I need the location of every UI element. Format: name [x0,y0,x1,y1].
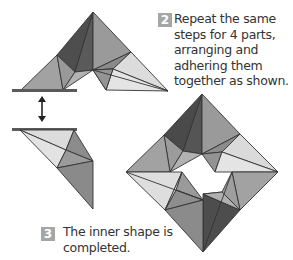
step-2-line: steps for 4 parts, [174,27,289,43]
table-edge-top [12,89,77,92]
step-2-line: adhering them [174,58,289,74]
step-3-line: completed. [63,240,173,256]
step-2-text: Repeat the same steps for 4 parts, arran… [174,11,289,89]
step-2-line: arranging and [174,42,289,58]
double-arrow-icon [38,96,46,122]
step-2-badge: 2 [158,13,172,27]
origami-part-top [21,12,168,91]
origami-part-bottom [20,130,93,209]
step-2-line: together as shown. [174,73,289,89]
step-3-badge: 3 [41,227,55,241]
step-2-line: Repeat the same [174,11,289,27]
step-3-text: The inner shape is completed. [63,224,173,255]
step-3-line: The inner shape is [63,224,173,240]
